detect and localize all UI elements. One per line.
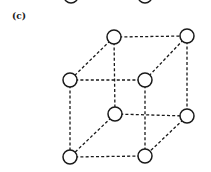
node-top-back-right — [180, 29, 194, 43]
edge-bottom-back-left-bottom-front-left — [70, 114, 115, 157]
node-bottom-back-right — [180, 109, 194, 123]
node-bottom-front-left — [63, 150, 77, 164]
edge-bottom-front-left-bottom-front-right — [70, 156, 145, 157]
edge-top-back-right-top-front-right — [145, 36, 187, 80]
partial-node-1 — [138, 0, 152, 3]
edge-top-back-left-top-back-right — [114, 36, 187, 37]
cube-diagram — [0, 0, 211, 172]
node-top-front-left — [63, 73, 77, 87]
node-top-back-left — [107, 30, 121, 44]
edge-top-back-left-bottom-back-left — [114, 37, 115, 114]
node-bottom-front-right — [138, 149, 152, 163]
node-bottom-back-left — [108, 107, 122, 121]
edge-top-back-left-top-front-left — [70, 37, 114, 80]
node-top-front-right — [138, 73, 152, 87]
edge-bottom-back-left-bottom-back-right — [115, 114, 187, 116]
edge-bottom-back-right-bottom-front-right — [145, 116, 187, 156]
partial-node-0 — [64, 0, 78, 3]
